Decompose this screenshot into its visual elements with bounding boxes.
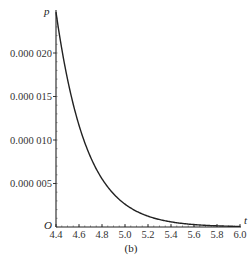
x-tick-label: 5.8 (210, 229, 223, 240)
x-tick-label: 5.6 (187, 229, 200, 240)
x-tick-label: 5.0 (118, 229, 131, 240)
x-tick-label: 5.4 (164, 229, 178, 240)
y-tick-label: 0.000 015 (10, 91, 52, 102)
exponential-decay-chart: 4.44.64.85.05.25.45.65.86.00.000 0050.00… (0, 0, 250, 259)
origin-label: O (44, 219, 52, 231)
x-tick-label: 5.2 (141, 229, 154, 240)
x-tick-label: 4.6 (72, 229, 85, 240)
y-tick-label: 0.000 005 (10, 178, 52, 189)
figure-caption: (b) (125, 242, 138, 255)
data-line (56, 12, 240, 226)
y-tick-label: 0.000 010 (10, 135, 52, 146)
axes (56, 10, 241, 227)
y-tick-label: 0.000 020 (10, 48, 52, 59)
x-axis-label: t (244, 214, 248, 226)
x-tick-label: 6.0 (233, 229, 246, 240)
x-tick-label: 4.8 (95, 229, 108, 240)
y-axis-label: p (43, 5, 50, 17)
